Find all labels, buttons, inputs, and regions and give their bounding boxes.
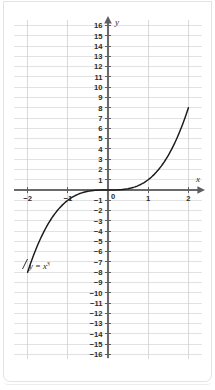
tick-label-y: 14 bbox=[94, 42, 103, 51]
origin-label: 0 bbox=[111, 192, 115, 201]
figure-card: 16151413121110987654321−1−2−3−4−5−6−7−8−… bbox=[3, 1, 212, 382]
y-axis bbox=[104, 16, 112, 358]
coordinate-plane-svg: 16151413121110987654321−1−2−3−4−5−6−7−8−… bbox=[11, 14, 206, 362]
tick-label-y: 16 bbox=[94, 21, 102, 30]
tick-label-y: −5 bbox=[94, 237, 103, 246]
tick-label-y: 2 bbox=[98, 165, 102, 174]
tick-label-y: 10 bbox=[94, 83, 102, 92]
tick-label-y: −1 bbox=[94, 196, 103, 205]
tick-label-y: −7 bbox=[94, 258, 103, 267]
curve-equation-exponent: 3 bbox=[46, 261, 50, 267]
tick-label-y: −13 bbox=[90, 319, 103, 328]
tick-label-y: −14 bbox=[90, 330, 104, 339]
tick-label-y: −12 bbox=[90, 309, 103, 318]
curve-equation-label: y = x3 bbox=[28, 261, 50, 271]
x-axis-tick-labels: −2−112 bbox=[23, 194, 190, 203]
tick-label-x: 1 bbox=[146, 194, 151, 203]
y-axis-arrowhead bbox=[104, 16, 112, 24]
graph-plot-area: 16151413121110987654321−1−2−3−4−5−6−7−8−… bbox=[11, 14, 206, 362]
tick-label-y: 11 bbox=[94, 73, 103, 82]
tick-label-x: 2 bbox=[186, 194, 190, 203]
tick-label-y: 8 bbox=[98, 104, 102, 113]
tick-label-y: −10 bbox=[90, 289, 103, 298]
curve-equation-text: y = x bbox=[28, 261, 47, 271]
tick-label-y: −16 bbox=[90, 350, 103, 359]
x-axis-arrowhead bbox=[197, 186, 205, 194]
tick-label-x: −2 bbox=[23, 194, 32, 203]
tick-label-y: −9 bbox=[94, 278, 103, 287]
curve-label-leader bbox=[23, 259, 28, 269]
tick-label-y: −6 bbox=[94, 247, 103, 256]
tick-label-y: 6 bbox=[98, 124, 102, 133]
tick-label-y: −11 bbox=[90, 299, 103, 308]
tick-label-y: −15 bbox=[90, 340, 104, 349]
card-bottom-edge bbox=[4, 381, 211, 385]
tick-label-y: 12 bbox=[94, 62, 102, 71]
tick-label-y: −3 bbox=[94, 217, 103, 226]
tick-label-y: 7 bbox=[98, 114, 102, 123]
tick-label-y: 9 bbox=[98, 93, 102, 102]
tick-label-y: −2 bbox=[94, 206, 103, 215]
y-axis-label: y bbox=[114, 17, 119, 27]
tick-label-y: −8 bbox=[94, 268, 103, 277]
screenshot-root: 16151413121110987654321−1−2−3−4−5−6−7−8−… bbox=[0, 0, 215, 390]
tick-label-y: 15 bbox=[94, 32, 103, 41]
tick-label-y: 3 bbox=[98, 155, 102, 164]
tick-label-y: −4 bbox=[94, 227, 103, 236]
tick-label-y: 13 bbox=[94, 52, 102, 61]
x-axis-label: x bbox=[195, 174, 200, 184]
